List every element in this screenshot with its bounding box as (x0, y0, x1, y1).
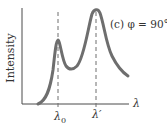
tick-label-lambda0: λ0 (53, 110, 66, 125)
tick-label-lambda-prime: λ′ (91, 108, 102, 121)
chart-canvas: Intensity λ λ0 λ′ (c) φ = 90° (0, 0, 167, 131)
x-axis-label: λ (132, 97, 140, 110)
y-axis-label: Intensity (4, 33, 17, 83)
phi-annotation: (c) φ = 90° (110, 18, 167, 30)
